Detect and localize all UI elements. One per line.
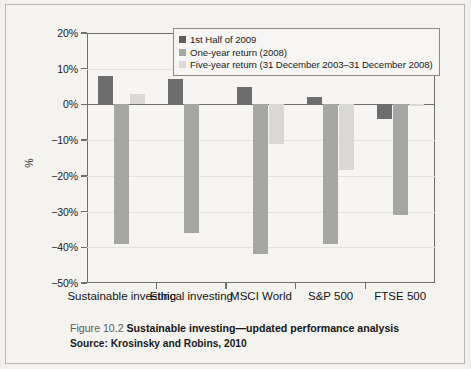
- y-axis-tick-label: −30%: [51, 206, 78, 218]
- legend-item-label: Five-year return (31 December 2003–31 De…: [190, 59, 433, 70]
- bar: [114, 104, 129, 243]
- bar: [323, 104, 338, 243]
- y-axis-title: %: [23, 158, 35, 167]
- bar: [237, 87, 252, 105]
- bar: [307, 97, 322, 104]
- caption-title-line: Figure 10.2 Sustainable investing—update…: [70, 321, 450, 336]
- figure-number: Figure 10.2: [70, 322, 124, 334]
- legend-swatch-icon: [179, 49, 186, 56]
- figure-caption: Figure 10.2 Sustainable investing—update…: [70, 321, 450, 351]
- bar: [339, 104, 354, 170]
- bar: [130, 94, 145, 105]
- legend-swatch-icon: [179, 36, 186, 43]
- y-axis-tick-label: −50%: [51, 277, 78, 289]
- y-axis-tick-label: −10%: [51, 134, 78, 146]
- legend-item-label: 1st Half of 2009: [190, 34, 256, 45]
- legend-item: One-year return (2008): [179, 46, 433, 58]
- bar: [377, 104, 392, 118]
- x-axis-tick: [365, 283, 366, 289]
- bar: [409, 104, 424, 106]
- y-axis-tick-label: 0%: [63, 98, 78, 110]
- bar: [168, 79, 183, 104]
- figure-container: 20%10%0%−10%−20%−30%−40%−50% % Sustainab…: [5, 4, 465, 364]
- bar: [253, 104, 268, 254]
- legend-item: Five-year return (31 December 2003–31 De…: [179, 59, 433, 71]
- bar-group: Sustainable investing: [87, 33, 157, 283]
- x-axis-tick: [156, 283, 157, 289]
- y-axis-tick-label: 20%: [57, 27, 78, 39]
- chart-legend: 1st Half of 2009One-year return (2008)Fi…: [173, 28, 440, 76]
- figure-title: Sustainable investing—updated performanc…: [127, 322, 400, 334]
- bar: [98, 76, 113, 105]
- x-axis-category-label: FTSE 500: [345, 290, 455, 304]
- legend-item: 1st Half of 2009: [179, 34, 433, 46]
- y-axis-tick-label: 10%: [57, 63, 78, 75]
- bar: [184, 104, 199, 233]
- x-axis-tick: [295, 283, 296, 289]
- x-axis-tick: [225, 283, 226, 289]
- bar: [269, 104, 284, 143]
- legend-item-label: One-year return (2008): [190, 47, 287, 58]
- y-axis-tick-label: −40%: [51, 241, 78, 253]
- y-axis-tick-label: −20%: [51, 170, 78, 182]
- legend-swatch-icon: [179, 61, 186, 68]
- figure-source: Source: Krosinsky and Robins, 2010: [70, 336, 450, 351]
- bar: [393, 104, 408, 215]
